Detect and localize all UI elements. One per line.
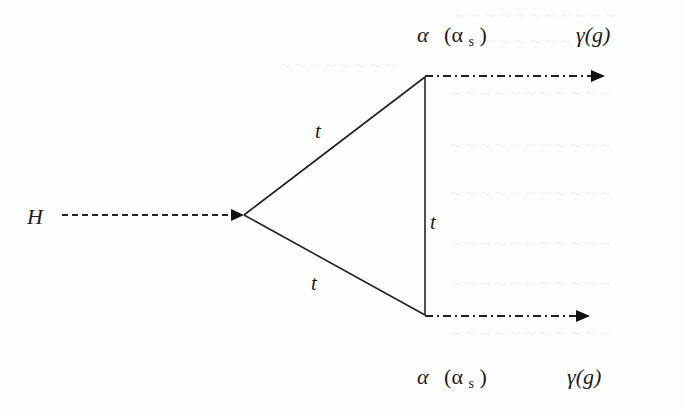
svg-text:~ ~ ~ ~ ~ ~ ~ ~ ~ ~ ~: ~ ~ ~ ~ ~ ~ ~ ~ ~ ~ ~: [450, 135, 611, 156]
svg-text:~ ~ ~ ~ ~ ~ ~ ~ ~ ~ ~: ~ ~ ~ ~ ~ ~ ~ ~ ~ ~ ~: [450, 273, 611, 294]
feynman-diagram: ~ ~ ~ ~ ~ ~ ~ ~ ~ ~ ~ ~ ~ ~ ~ ~ ~ ~ ~ ~ …: [0, 0, 685, 409]
svg-text:~ ~ ~ ~ ~ ~ ~ ~ ~ ~ ~: ~ ~ ~ ~ ~ ~ ~ ~ ~ ~ ~: [450, 83, 611, 104]
coupling-alpha: α: [417, 22, 429, 47]
outgoing-lower-arrow-icon: [576, 310, 590, 322]
coupling-label-lower: α (α s ): [417, 364, 487, 393]
coupling-alpha-s-sub: s: [468, 34, 473, 49]
top-label-right: t: [430, 210, 437, 234]
bleed-through-texture: ~ ~ ~ ~ ~ ~ ~ ~ ~ ~ ~ ~ ~ ~ ~ ~ ~ ~ ~ ~ …: [280, 5, 616, 344]
outgoing-upper-arrow-icon: [591, 70, 605, 82]
higgs-label: H: [26, 204, 44, 229]
coupling-alpha-s-open: (α: [444, 364, 463, 389]
svg-text:~ ~ ~ ~ ~ ~ ~ ~ ~ ~ ~: ~ ~ ~ ~ ~ ~ ~ ~ ~ ~ ~: [450, 183, 611, 204]
top-loop-upper-line: [244, 77, 425, 215]
svg-text:~ ~ ~ ~ ~ ~ ~ ~ ~ ~ ~: ~ ~ ~ ~ ~ ~ ~ ~ ~ ~ ~: [450, 233, 611, 254]
svg-text:~ ~ ~ ~ ~ ~ ~ ~: ~ ~ ~ ~ ~ ~ ~ ~: [280, 55, 395, 76]
boson-label-upper: γ(g): [576, 22, 610, 47]
coupling-alpha-s-close: ): [479, 22, 486, 47]
coupling-label-upper: α (α s ): [417, 22, 487, 51]
top-loop-lower-line: [244, 215, 425, 315]
top-label-upper: t: [315, 119, 322, 143]
coupling-alpha-s-sub: s: [468, 376, 473, 391]
coupling-alpha-s-close: ): [479, 364, 486, 389]
coupling-alpha: α: [417, 364, 429, 389]
svg-text:~ ~ ~ ~ ~ ~ ~ ~ ~ ~ ~: ~ ~ ~ ~ ~ ~ ~ ~ ~ ~ ~: [450, 323, 611, 344]
coupling-alpha-s-open: (α: [444, 22, 463, 47]
higgs-arrow-icon: [231, 209, 244, 221]
boson-label-lower: γ(g): [567, 364, 601, 389]
top-label-lower: t: [311, 271, 318, 295]
